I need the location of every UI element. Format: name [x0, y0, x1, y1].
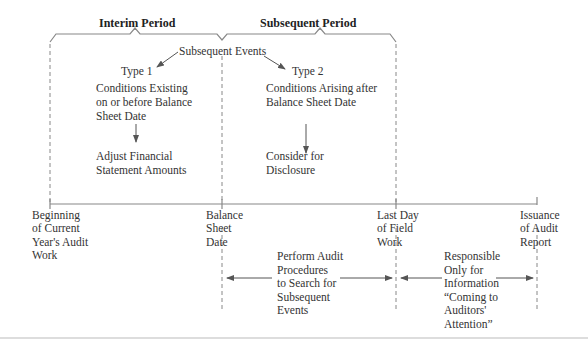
subsequent-period-label: Subsequent Period	[260, 17, 356, 30]
type1-label: Type 1	[121, 65, 152, 78]
interim-period-label: Interim Period	[99, 17, 175, 30]
subsequent-events-title: Subsequent Events	[179, 45, 266, 58]
type2-label: Type 2	[292, 65, 323, 78]
arrow-to-type2	[264, 56, 285, 69]
timeline	[50, 197, 537, 209]
arrow-to-type1	[157, 52, 178, 67]
